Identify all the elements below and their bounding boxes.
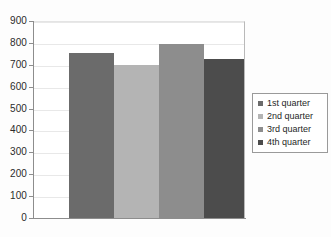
bar [204,59,245,218]
legend-swatch-icon [258,114,263,119]
x-axis-line [33,218,246,219]
y-tick-label: 0 [21,213,27,223]
y-axis-tick [29,109,33,110]
legend-item[interactable]: 1st quarter [256,97,324,110]
bar [114,65,159,218]
y-axis-tick [29,196,33,197]
legend-item[interactable]: 2nd quarter [256,110,324,123]
legend-label: 1st quarter [267,99,310,108]
y-axis-tick [29,130,33,131]
y-axis-tick [29,43,33,44]
y-axis-labels: 0100200300400500600700800900 [0,0,30,237]
bars-layer [34,22,244,218]
y-tick-label: 800 [10,38,27,48]
y-tick-label: 600 [10,82,27,92]
bar [69,53,114,218]
y-tick-label: 300 [10,147,27,157]
legend-item[interactable]: 3rd quarter [256,123,324,136]
y-tick-label: 100 [10,191,27,201]
y-tick-label: 700 [10,60,27,70]
plot-area [34,21,245,218]
legend-label: 2nd quarter [267,112,313,121]
y-tick-label: 400 [10,125,27,135]
legend-item[interactable]: 4th quarter [256,136,324,149]
legend-swatch-icon [258,140,263,145]
legend-swatch-icon [258,101,263,106]
y-axis-tick [29,65,33,66]
legend: 1st quarter2nd quarter3rd quarter4th qua… [252,93,328,153]
y-axis-tick [29,21,33,22]
y-axis-tick [29,174,33,175]
legend-label: 3rd quarter [267,125,311,134]
legend-swatch-icon [258,127,263,132]
legend-label: 4th quarter [267,138,311,147]
y-axis-tick [29,218,33,219]
bar-chart: 0100200300400500600700800900 1st quarter… [0,0,331,237]
y-axis-tick [29,87,33,88]
y-tick-label: 200 [10,169,27,179]
y-tick-label: 500 [10,104,27,114]
bar [159,44,204,218]
y-axis-tick [29,152,33,153]
y-tick-label: 900 [10,16,27,26]
